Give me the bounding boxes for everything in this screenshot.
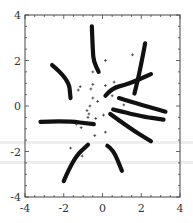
plus-marker (94, 117, 97, 120)
plus-marker (113, 81, 116, 84)
plus-marker (93, 134, 96, 137)
trajectory-line (41, 121, 94, 124)
plus-marker (96, 100, 99, 103)
plus-marker (91, 97, 94, 100)
plus-marker (91, 70, 94, 73)
plus-marker (131, 53, 134, 56)
trajectory-line (105, 74, 151, 96)
plus-marker (79, 85, 82, 88)
plus-marker (89, 105, 92, 108)
plus-marker (86, 109, 89, 112)
trajectory-line (92, 26, 99, 72)
y-tick-label: -2 (10, 146, 21, 159)
trajectory-line (52, 65, 70, 98)
x-tick-label: 2 (138, 202, 145, 215)
x-tick-label: 0 (99, 202, 106, 215)
plot-border (25, 15, 180, 197)
x-axis-tick-labels: -4-2024 (20, 202, 184, 215)
y-tick-label: 4 (14, 9, 21, 22)
plus-marker (89, 88, 92, 91)
y-axis-tick-labels: -4-2024 (10, 9, 21, 204)
plus-marker (104, 59, 107, 62)
plus-marker (77, 89, 80, 92)
y-tick-label: -4 (10, 191, 21, 204)
plus-marker (104, 131, 107, 134)
scan-band-2 (0, 161, 193, 164)
scatter-trajectory-chart: -4-2024 -4-2024 (0, 0, 193, 223)
trajectory-line (119, 98, 166, 112)
trajectory-lines (41, 26, 166, 181)
y-tick-label: 0 (14, 100, 21, 113)
trajectory-line (134, 43, 145, 93)
y-tick-label: 2 (14, 55, 21, 68)
x-tick-label: 4 (177, 202, 184, 215)
scan-band-1 (0, 141, 193, 144)
plus-marker (80, 126, 83, 129)
plus-marker (122, 103, 125, 106)
plus-marker (111, 94, 114, 97)
x-tick-label: -4 (20, 202, 31, 215)
plus-marker (104, 84, 107, 87)
plus-marker (69, 147, 72, 150)
plus-marker (91, 83, 94, 86)
trajectory-line (107, 146, 122, 171)
plus-marker (88, 113, 91, 116)
plus-marker (87, 116, 90, 119)
axis-ticks (25, 15, 180, 197)
x-tick-label: -2 (58, 202, 69, 215)
plus-marker (81, 155, 84, 158)
plus-marker (102, 114, 105, 117)
plot-frame (25, 15, 180, 197)
